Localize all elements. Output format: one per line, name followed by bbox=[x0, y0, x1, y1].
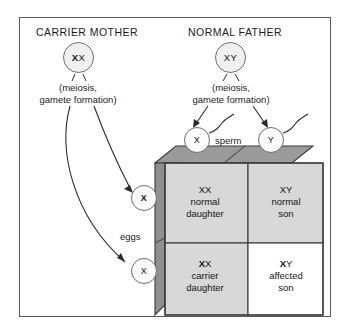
sperm-label: sperm bbox=[215, 135, 241, 146]
father-split-left bbox=[223, 74, 227, 81]
cell-tr-line2: normal bbox=[249, 196, 323, 208]
sperm-y-circle: Y bbox=[258, 127, 284, 153]
cell-br-line2: affected bbox=[249, 270, 323, 282]
mother-split-left bbox=[72, 74, 75, 81]
punnett-cell-top-right: XY normal son bbox=[249, 184, 323, 220]
cell-tl-line3: daughter bbox=[163, 208, 247, 220]
cell-bl-genotype: XX bbox=[163, 258, 247, 270]
sperm-x-tail-icon bbox=[209, 114, 234, 133]
punnett-cell-top-left: XX normal daughter bbox=[163, 184, 247, 220]
sperm-x-circle: X bbox=[184, 127, 210, 153]
egg-normal-circle: X bbox=[131, 258, 157, 284]
cell-tr-genotype: XY bbox=[249, 184, 323, 196]
mother-egg-arrow-1 bbox=[66, 106, 125, 262]
mother-split-right bbox=[83, 74, 86, 81]
cell-tl-line2: normal bbox=[163, 196, 247, 208]
father-split-right bbox=[235, 74, 239, 81]
sperm-y-label: Y bbox=[268, 135, 274, 145]
mother-egg-arrow-2 bbox=[94, 106, 130, 188]
cell-br-genotype: XY bbox=[249, 258, 323, 270]
egg-carrier-circle: X bbox=[131, 185, 157, 211]
cell-bl-line2: carrier bbox=[163, 270, 247, 282]
diagram-stage: CARRIER MOTHER NORMAL FATHER XX XY (meio… bbox=[0, 0, 349, 331]
cell-tr-rest: XY bbox=[280, 184, 293, 195]
cell-br-rest: Y bbox=[286, 258, 292, 269]
egg-carrier-label: X bbox=[141, 193, 147, 203]
mother-egg-arrowhead-1 bbox=[117, 253, 125, 262]
cell-bl-line3: daughter bbox=[163, 282, 247, 294]
egg-normal-label: X bbox=[141, 266, 147, 276]
punnett-cell-bottom-right: XY affected son bbox=[249, 258, 323, 294]
sperm-x-label: X bbox=[194, 135, 200, 145]
eggs-label: eggs bbox=[120, 231, 141, 242]
punnett-cell-bottom-left: XX carrier daughter bbox=[163, 258, 247, 294]
cell-bl-rest: X bbox=[205, 258, 211, 269]
cell-tr-line3: son bbox=[249, 208, 323, 220]
cell-br-line3: son bbox=[249, 282, 323, 294]
cell-tl-genotype: XX bbox=[163, 184, 247, 196]
sperm-y-tail-icon bbox=[283, 114, 308, 133]
cell-tl-rest: XX bbox=[199, 184, 212, 195]
